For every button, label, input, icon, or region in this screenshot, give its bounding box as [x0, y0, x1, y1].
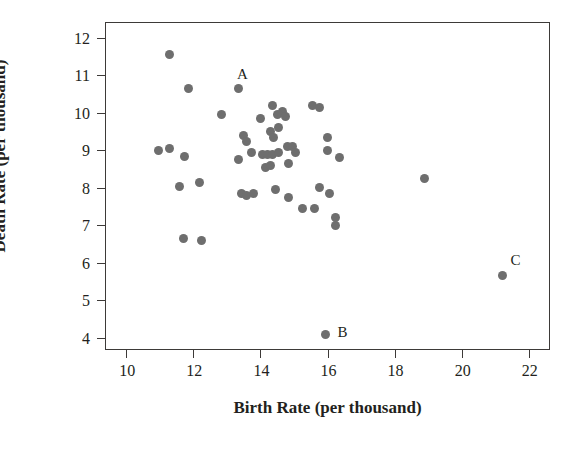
- data-point: [180, 152, 189, 161]
- data-point: [165, 50, 174, 59]
- y-axis-tick: 10: [97, 113, 106, 114]
- data-point: [256, 114, 265, 123]
- data-point: [197, 236, 206, 245]
- data-point: [310, 204, 319, 213]
- data-point-c: [498, 271, 507, 280]
- y-axis-tick-label: 7: [82, 217, 90, 235]
- y-axis-tick: 9: [97, 150, 106, 151]
- data-point: [242, 137, 251, 146]
- y-axis-title: Death Rate (per thousand): [0, 0, 13, 320]
- point-annotation-c: C: [510, 253, 520, 268]
- x-axis-title: Birth Rate (per thousand): [105, 398, 550, 418]
- x-axis-tick: 20: [462, 349, 463, 358]
- data-point: [271, 185, 280, 194]
- data-point: [284, 159, 293, 168]
- data-point: [284, 193, 293, 202]
- y-axis-tick: 7: [97, 225, 106, 226]
- y-axis-tick-label: 11: [75, 67, 90, 85]
- x-axis-tick-label: 16: [321, 362, 337, 380]
- x-axis-tick: 18: [395, 349, 396, 358]
- data-point: [274, 123, 283, 132]
- data-point: [331, 221, 340, 230]
- data-point: [165, 144, 174, 153]
- data-point: [420, 174, 429, 183]
- point-annotation-b: B: [338, 325, 348, 340]
- y-axis-tick: 5: [97, 300, 106, 301]
- data-point-a: [234, 84, 243, 93]
- data-point: [266, 161, 275, 170]
- data-point: [184, 84, 193, 93]
- y-axis-tick: 6: [97, 263, 106, 264]
- data-point: [179, 234, 188, 243]
- y-axis-tick: 4: [97, 338, 106, 339]
- data-point: [281, 112, 290, 121]
- data-point: [291, 148, 300, 157]
- data-point-b: [321, 330, 330, 339]
- x-axis-tick: 14: [260, 349, 261, 358]
- data-point: [315, 183, 324, 192]
- point-annotation-a: A: [237, 67, 248, 82]
- data-point: [335, 153, 344, 162]
- data-point: [323, 133, 332, 142]
- data-point: [195, 178, 204, 187]
- data-point: [175, 182, 184, 191]
- x-axis-tick-label: 12: [186, 362, 202, 380]
- x-axis-tick: 22: [529, 349, 530, 358]
- x-axis-tick-label: 14: [253, 362, 269, 380]
- data-point: [323, 146, 332, 155]
- data-point: [249, 189, 258, 198]
- data-point: [298, 204, 307, 213]
- data-points-layer: ABC: [106, 23, 549, 349]
- x-axis-tick: 12: [193, 349, 194, 358]
- data-point: [234, 155, 243, 164]
- data-point: [217, 110, 226, 119]
- x-axis-tick-label: 22: [522, 362, 538, 380]
- plot-area: ABC 45678910111210121416182022: [105, 22, 550, 350]
- data-point: [274, 148, 283, 157]
- y-axis-tick-label: 6: [82, 255, 90, 273]
- scatter-plot-figure: ABC 45678910111210121416182022 Death Rat…: [0, 0, 584, 449]
- data-point: [154, 146, 163, 155]
- y-axis-tick-label: 5: [82, 292, 90, 310]
- data-point: [325, 189, 334, 198]
- y-axis-tick-label: 9: [82, 142, 90, 160]
- x-axis-tick-label: 20: [455, 362, 471, 380]
- y-axis-tick: 11: [97, 75, 106, 76]
- y-axis-tick-label: 10: [74, 105, 90, 123]
- data-point: [268, 101, 277, 110]
- y-axis-tick-label: 8: [82, 180, 90, 198]
- y-axis-tick-label: 4: [82, 330, 90, 348]
- data-point: [247, 148, 256, 157]
- y-axis-tick: 12: [97, 38, 106, 39]
- x-axis-tick-label: 18: [388, 362, 404, 380]
- x-axis-tick-label: 10: [119, 362, 135, 380]
- y-axis-tick-label: 12: [74, 30, 90, 48]
- data-point: [269, 133, 278, 142]
- data-point: [315, 103, 324, 112]
- y-axis-tick: 8: [97, 188, 106, 189]
- x-axis-tick: 10: [126, 349, 127, 358]
- x-axis-tick: 16: [328, 349, 329, 358]
